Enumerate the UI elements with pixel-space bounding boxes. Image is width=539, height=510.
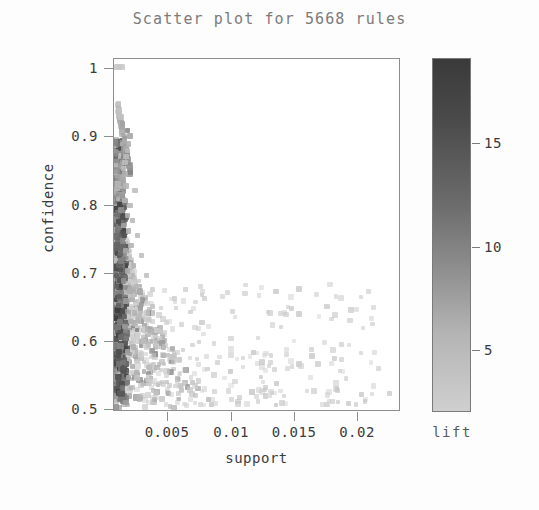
scatter-point (131, 263, 136, 268)
scatter-point (230, 309, 236, 315)
scatter-point (249, 389, 254, 394)
scatter-point (129, 385, 134, 390)
scatter-point (130, 218, 135, 223)
scatter-point (296, 286, 302, 292)
scatter-point (125, 349, 130, 354)
scatter-point (339, 342, 344, 347)
y-tick-1 (104, 68, 113, 69)
scatter-point (308, 375, 314, 381)
scatter-point (158, 329, 163, 334)
scatter-point (144, 343, 150, 349)
scatter-point (256, 399, 261, 404)
scatter-point (327, 282, 333, 288)
scatter-point (202, 367, 207, 372)
scatter-point (266, 310, 270, 314)
scatter-point (145, 392, 151, 398)
scatter-point (114, 242, 119, 247)
scatter-point (153, 401, 157, 405)
scatter-point (128, 319, 133, 324)
scatter-point (370, 392, 374, 396)
y-tick-label-0.5: 0.5 (0, 401, 98, 417)
scatter-point (329, 361, 334, 366)
scatter-point (127, 133, 132, 138)
scatter-point (273, 391, 277, 395)
scatter-point (371, 305, 376, 310)
scatter-point (133, 354, 138, 359)
scatter-point (160, 352, 166, 358)
y-tick-0.9 (104, 136, 113, 137)
scatter-point (130, 364, 135, 369)
scatter-point (181, 348, 185, 352)
scatter-point (256, 336, 261, 341)
scatter-point (263, 368, 268, 373)
scatter-point (142, 369, 146, 373)
scatter-point (196, 362, 201, 367)
scatter-point (118, 334, 123, 339)
scatter-point (228, 346, 234, 352)
scatter-point (138, 352, 143, 357)
scatter-point (123, 298, 128, 303)
scatter-point (257, 293, 262, 298)
scatter-point (121, 177, 126, 182)
scatter-point (169, 354, 174, 359)
scatter-point (339, 357, 344, 362)
scatter-point (237, 395, 242, 400)
scatter-point (330, 399, 336, 405)
scatter-point (120, 64, 125, 69)
scatter-point (220, 294, 225, 299)
scatter-point (228, 352, 234, 358)
scatter-point (170, 326, 176, 332)
scatter-point (226, 388, 232, 394)
scatter-point (241, 365, 245, 369)
y-axis-label: confidence (40, 138, 56, 278)
scatter-point (204, 354, 208, 358)
scatter-point (346, 401, 351, 406)
scatter-point (270, 322, 275, 327)
scatter-point (120, 385, 125, 390)
scatter-point (212, 341, 217, 346)
scatter-point (261, 380, 265, 384)
y-tick-0.8 (104, 205, 113, 206)
scatter-point (171, 405, 177, 411)
scatter-point (157, 381, 162, 386)
scatter-point (243, 283, 248, 288)
scatter-point (242, 291, 247, 296)
scatter-point (146, 400, 151, 405)
x-tick-0.015 (294, 412, 295, 421)
scatter-point (176, 397, 180, 401)
scatter-point (121, 360, 126, 365)
scatter-point (195, 357, 199, 361)
scatter-point (372, 350, 377, 355)
x-tick-0.02 (357, 412, 358, 421)
scatter-point (235, 357, 239, 361)
scatter-point (288, 294, 294, 300)
scatter-point (118, 207, 123, 212)
scatter-point (182, 402, 186, 406)
scatter-point (274, 403, 278, 407)
scatter-point (134, 387, 139, 392)
scatter-point (164, 373, 169, 378)
scatter-point (120, 121, 125, 126)
scatter-point (285, 366, 290, 371)
scatter-point (125, 268, 130, 273)
scatter-point (146, 317, 152, 323)
scatter-point (118, 252, 123, 257)
scatter-point (123, 400, 128, 405)
scatter-point (114, 167, 120, 173)
scatter-point (137, 288, 143, 294)
scatter-point (166, 319, 171, 324)
colorbar-title: lift (420, 424, 484, 440)
scatter-point (147, 329, 153, 335)
scatter-point (354, 307, 359, 312)
scatter-point (201, 332, 205, 336)
scatter-point (120, 238, 125, 243)
scatter-point (284, 352, 289, 357)
chart-title: Scatter plot for 5668 rules (0, 10, 539, 28)
scatter-point (254, 394, 259, 399)
scatter-point (215, 360, 220, 365)
scatter-point (283, 312, 289, 318)
scatter-point (154, 395, 158, 399)
scatter-point (123, 248, 128, 253)
scatter-point (126, 228, 131, 233)
scatter-point (170, 346, 175, 351)
